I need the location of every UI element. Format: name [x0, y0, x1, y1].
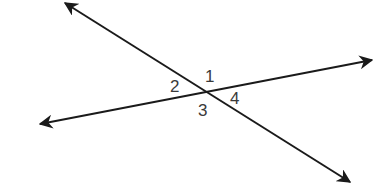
intersecting-lines-diagram: 1 2 3 4 [0, 0, 389, 188]
angle-label-1: 1 [205, 67, 214, 86]
angle-label-3: 3 [198, 101, 207, 120]
angle-label-2: 2 [170, 77, 179, 96]
angle-label-4: 4 [230, 89, 239, 108]
